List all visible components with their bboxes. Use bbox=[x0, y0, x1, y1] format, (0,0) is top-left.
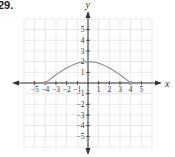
y-tick-label: 4 bbox=[81, 36, 85, 45]
endpoint-dot bbox=[43, 81, 47, 85]
x-tick-label: −5 bbox=[31, 85, 39, 94]
x-tick-label: 2 bbox=[107, 85, 111, 94]
endpoint-dot bbox=[129, 81, 133, 85]
y-tick-label: 3 bbox=[81, 47, 85, 56]
x-axis-left-arrow-icon bbox=[12, 81, 19, 86]
y-tick-label: 1 bbox=[81, 68, 85, 77]
y-axis-up-arrow-icon bbox=[86, 11, 91, 18]
x-axis-label: x bbox=[164, 78, 170, 89]
y-tick-label: −2 bbox=[77, 100, 85, 109]
y-tick-label: 5 bbox=[81, 25, 85, 34]
x-tick-label: 3 bbox=[118, 85, 122, 94]
x-tick-label: 1 bbox=[97, 85, 101, 94]
y-tick-label: −5 bbox=[77, 132, 85, 141]
x-tick-label: −4 bbox=[41, 85, 49, 94]
x-tick-label: −2 bbox=[63, 85, 71, 94]
y-tick-label: −4 bbox=[77, 121, 85, 130]
x-tick-label: −3 bbox=[52, 85, 60, 94]
x-tick-label: 5 bbox=[139, 85, 143, 94]
y-axis-down-arrow-icon bbox=[86, 148, 91, 155]
x-axis-right-arrow-icon bbox=[155, 81, 162, 86]
function-graph: −5−4−3−2−11234554321−1−2−3−4−5xy bbox=[0, 0, 175, 157]
y-axis-label: y bbox=[85, 0, 91, 10]
y-tick-label: −1 bbox=[77, 89, 85, 98]
x-tick-label: 4 bbox=[129, 85, 133, 94]
y-tick-label: −3 bbox=[77, 111, 85, 120]
